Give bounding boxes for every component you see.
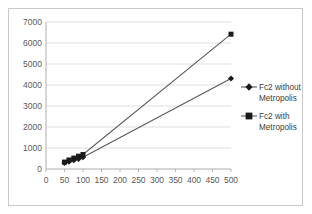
legend-label-line1: Fc2 with xyxy=(259,112,290,121)
series-fc2-with-metropolis xyxy=(62,32,234,165)
x-tick-label: 200 xyxy=(113,175,127,185)
series-line xyxy=(65,78,232,162)
diamond-marker-icon xyxy=(228,75,234,81)
y-tick-label: 2000 xyxy=(23,122,42,132)
line-chart: 0 1000 2000 3000 4000 5000 6000 7000 0 xyxy=(9,9,302,205)
x-tick-label: 150 xyxy=(94,175,108,185)
legend-label-line1: Fc2 without xyxy=(259,83,302,92)
legend-label-line2: Metropolis xyxy=(259,123,297,132)
legend-entry-fc2-with-metropolis[interactable]: Fc2 with Metropolis xyxy=(241,112,297,132)
square-marker-icon xyxy=(62,160,67,165)
y-tick-label: 0 xyxy=(37,164,42,174)
x-tick-label: 0 xyxy=(44,175,49,185)
x-tick-label: 350 xyxy=(168,175,182,185)
x-tick-label: 100 xyxy=(76,175,90,185)
data-series-layer xyxy=(61,32,234,166)
y-tick-label: 7000 xyxy=(23,17,42,27)
square-marker-icon xyxy=(71,156,76,161)
x-tick-label: 400 xyxy=(187,175,201,185)
legend-label-line2: Metropolis xyxy=(259,94,297,103)
y-axis-tick-labels: 0 1000 2000 3000 4000 5000 6000 7000 xyxy=(23,17,42,174)
square-marker-icon xyxy=(246,113,253,120)
square-marker-icon xyxy=(76,154,81,159)
x-tick-label: 300 xyxy=(150,175,164,185)
chart-legend: Fc2 without Metropolis Fc2 with Metropol… xyxy=(241,83,302,132)
square-marker-icon xyxy=(81,152,86,157)
y-tick-label: 1000 xyxy=(23,143,42,153)
y-tick-label: 3000 xyxy=(23,101,42,111)
gridlines xyxy=(46,22,231,148)
x-tick-label: 50 xyxy=(60,175,70,185)
x-tick-label: 500 xyxy=(224,175,238,185)
x-axis-tick-labels: 0 50 100 150 200 250 300 350 400 450 500 xyxy=(44,175,239,185)
square-marker-icon xyxy=(66,157,71,162)
legend-entry-fc2-without-metropolis[interactable]: Fc2 without Metropolis xyxy=(241,83,302,103)
y-tick-label: 6000 xyxy=(23,38,42,48)
x-tick-label: 450 xyxy=(205,175,219,185)
chart-container: 0 1000 2000 3000 4000 5000 6000 7000 0 xyxy=(8,8,303,206)
series-line xyxy=(65,34,232,162)
series-fc2-without-metropolis xyxy=(61,75,234,166)
y-tick-label: 4000 xyxy=(23,80,42,90)
diamond-marker-icon xyxy=(245,83,252,91)
x-tick-label: 250 xyxy=(131,175,145,185)
y-tick-label: 5000 xyxy=(23,59,42,69)
square-marker-icon xyxy=(229,32,234,37)
